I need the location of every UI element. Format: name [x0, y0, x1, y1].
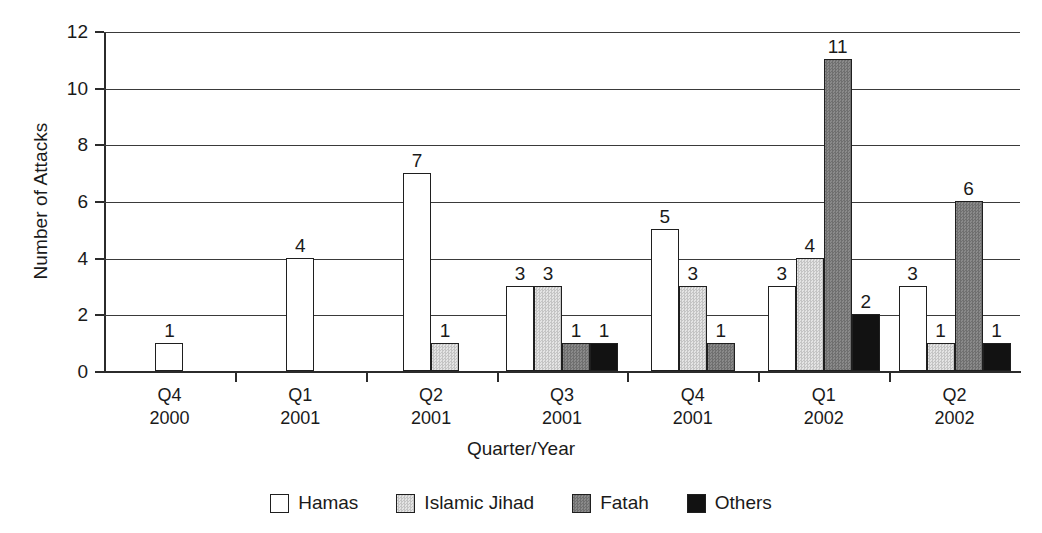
legend-swatch-fatah — [572, 494, 591, 513]
x-axis-separator-tick — [366, 373, 368, 382]
gridline — [104, 315, 1020, 316]
x-axis-separator-tick — [627, 373, 629, 382]
bar-value-label: 4 — [270, 236, 330, 255]
x-axis-category-label: Q32001 — [497, 384, 628, 430]
legend-swatch-hamas — [270, 494, 289, 513]
bar — [651, 229, 679, 371]
bar-value-label: 2 — [836, 292, 896, 311]
x-axis-quarter-label: Q2 — [889, 384, 1020, 407]
x-axis-quarter-label: Q3 — [497, 384, 628, 407]
x-axis-category-label: Q22001 — [366, 384, 497, 430]
x-axis-year-label: 2002 — [758, 407, 889, 430]
x-axis-quarter-label: Q4 — [627, 384, 758, 407]
legend-swatch-others — [687, 494, 706, 513]
gridline — [104, 145, 1020, 146]
legend-label: Fatah — [600, 492, 649, 514]
y-axis-tick — [95, 314, 104, 316]
x-axis-category-label: Q42001 — [627, 384, 758, 430]
bar-chart: Number of Attacks 024681012 147133115313… — [0, 0, 1042, 533]
bar-value-label: 1 — [574, 321, 634, 340]
bar — [927, 343, 955, 371]
x-axis-year-label: 2001 — [627, 407, 758, 430]
y-axis-tick-label: 2 — [42, 305, 88, 324]
x-axis-quarter-label: Q1 — [235, 384, 366, 407]
bar — [824, 59, 852, 371]
y-axis-tick — [95, 88, 104, 90]
x-axis-year-label: 2000 — [104, 407, 235, 430]
y-axis-tick-label: 0 — [42, 362, 88, 381]
y-axis-tick-label: 4 — [42, 249, 88, 268]
bar-value-label: 4 — [780, 236, 840, 255]
bar — [955, 201, 983, 371]
legend: HamasIslamic JihadFatahOthers — [0, 492, 1042, 514]
legend-label: Islamic Jihad — [424, 492, 534, 514]
legend-item-ij[interactable]: Islamic Jihad — [396, 492, 534, 514]
x-axis-quarter-label: Q4 — [104, 384, 235, 407]
gridline — [104, 259, 1020, 260]
y-axis-tick — [95, 258, 104, 260]
bar — [403, 173, 431, 371]
y-axis-tick — [95, 144, 104, 146]
gridline — [104, 32, 1020, 33]
bar-value-label: 3 — [518, 264, 578, 283]
x-axis-category-label: Q22002 — [889, 384, 1020, 430]
bar — [155, 343, 183, 371]
bar — [506, 286, 534, 371]
bar — [431, 343, 459, 371]
legend-item-fatah[interactable]: Fatah — [572, 492, 649, 514]
bar-value-label: 1 — [967, 321, 1027, 340]
legend-item-others[interactable]: Others — [687, 492, 772, 514]
y-axis-tick — [95, 31, 104, 33]
x-axis-year-label: 2002 — [889, 407, 1020, 430]
bar — [562, 343, 590, 371]
x-axis-title: Quarter/Year — [0, 438, 1042, 460]
x-axis-separator-tick — [758, 373, 760, 382]
x-axis-category-label: Q12002 — [758, 384, 889, 430]
x-axis-separator-tick — [889, 373, 891, 382]
bar-value-label: 5 — [635, 207, 695, 226]
bar-value-label: 1 — [911, 321, 971, 340]
bar-value-label: 3 — [883, 264, 943, 283]
bar-value-label: 7 — [387, 151, 447, 170]
bar — [768, 286, 796, 371]
y-axis-tick-label: 10 — [42, 79, 88, 98]
y-axis-tick-label: 12 — [42, 22, 88, 41]
gridline — [104, 89, 1020, 90]
legend-swatch-ij — [396, 494, 415, 513]
bar-value-label: 11 — [808, 37, 868, 56]
legend-item-hamas[interactable]: Hamas — [270, 492, 358, 514]
legend-label: Hamas — [298, 492, 358, 514]
bar-value-label: 3 — [752, 264, 812, 283]
x-axis-quarter-label: Q1 — [758, 384, 889, 407]
gridline — [104, 202, 1020, 203]
x-axis-category-label: Q12001 — [235, 384, 366, 430]
bar-value-label: 1 — [139, 321, 199, 340]
bar — [983, 343, 1011, 371]
x-axis-year-label: 2001 — [235, 407, 366, 430]
x-axis-separator-tick — [235, 373, 237, 382]
y-axis-tick — [95, 201, 104, 203]
legend-label: Others — [715, 492, 772, 514]
bar — [852, 314, 880, 371]
x-axis-separator-tick — [497, 373, 499, 382]
y-axis-tick-label: 8 — [42, 135, 88, 154]
x-axis-quarter-label: Q2 — [366, 384, 497, 407]
bar — [286, 258, 314, 371]
x-axis-category-label: Q42000 — [104, 384, 235, 430]
bar — [707, 343, 735, 371]
bar-value-label: 1 — [691, 321, 751, 340]
x-axis-year-label: 2001 — [366, 407, 497, 430]
x-axis-year-label: 2001 — [497, 407, 628, 430]
bar-value-label: 6 — [939, 179, 999, 198]
y-axis-tick-label: 6 — [42, 192, 88, 211]
y-axis-tick — [95, 371, 104, 373]
bar-value-label: 1 — [415, 321, 475, 340]
bar-value-label: 3 — [663, 264, 723, 283]
bar — [590, 343, 618, 371]
x-axis-line — [104, 371, 1021, 373]
plot-area: 024681012 14713311531341123161 — [104, 32, 1020, 372]
